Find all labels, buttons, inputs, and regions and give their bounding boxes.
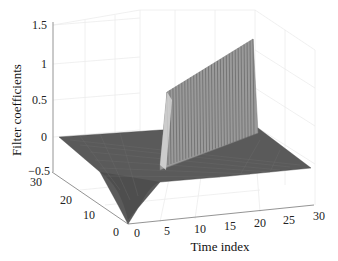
x-axis-label: Time index (190, 239, 250, 254)
y-tick-label: 10 (83, 208, 95, 222)
x-tick-label: 10 (194, 222, 206, 236)
z-axis-ticks: 1.5 1 0.5 0 −0.5 (28, 18, 50, 178)
x-tick-label: 0 (134, 226, 140, 240)
x-tick-label: 30 (313, 209, 325, 223)
z-tick-label: 0.5 (32, 93, 47, 107)
y-tick-label: 0 (113, 225, 119, 239)
z-tick-label: 1 (41, 57, 47, 71)
x-tick-label: 20 (254, 216, 266, 230)
x-tick-label: 5 (164, 224, 170, 238)
y-tick-label: 30 (30, 175, 42, 189)
y-axis-ticks: 30 20 10 0 (30, 175, 119, 239)
y-tick-label: 20 (60, 193, 72, 207)
z-tick-label: 1.5 (32, 18, 47, 32)
surface-plot: 1.5 1 0.5 0 −0.5 30 20 10 0 0 5 10 15 20… (0, 0, 338, 261)
z-tick-label: 0 (41, 130, 47, 144)
x-tick-label: 25 (283, 213, 295, 227)
z-axis-label: Filter coefficients (9, 64, 24, 156)
surface (59, 39, 311, 224)
x-tick-label: 15 (224, 219, 236, 233)
